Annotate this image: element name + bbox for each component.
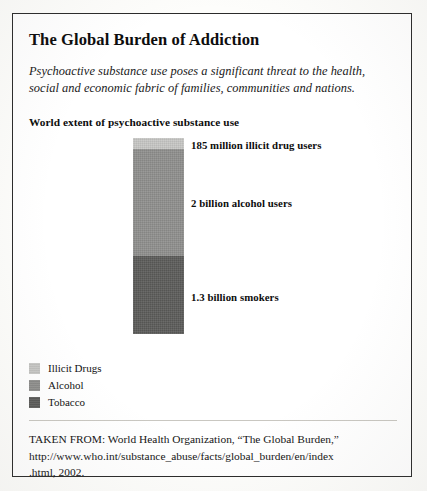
bar-label-alcohol: 2 billion alcohol users: [191, 197, 292, 209]
legend-item-alcohol: Alcohol: [29, 378, 229, 393]
citation-line-1: TAKEN FROM: World Health Organization, “…: [29, 431, 401, 448]
page-title: The Global Burden of Addiction: [29, 30, 395, 50]
legend-swatch-icon: [29, 397, 40, 408]
stacked-bar: [133, 138, 184, 334]
legend-label: Illicit Drugs: [48, 363, 101, 374]
legend-label: Alcohol: [48, 380, 83, 391]
legend-item-tobacco: Tobacco: [29, 395, 229, 410]
divider: [29, 420, 397, 421]
citation-line-3: .html, 2002.: [29, 464, 401, 481]
bar-segment-illicit-drugs: [133, 138, 184, 149]
source-citation: TAKEN FROM: World Health Organization, “…: [29, 431, 401, 481]
legend-swatch-icon: [29, 380, 40, 391]
chart-heading: World extent of psychoactive substance u…: [29, 116, 395, 128]
chart-legend: Illicit Drugs Alcohol Tobacco: [29, 361, 229, 412]
figure-subtitle: Psychoactive substance use poses a signi…: [29, 63, 395, 98]
stacked-bar-chart: 185 million illicit drug users 2 billion…: [29, 138, 395, 350]
bar-segment-tobacco: [133, 256, 184, 334]
figure-inner: The Global Burden of Addiction Psychoact…: [13, 14, 411, 476]
bar-segment-alcohol: [133, 149, 184, 256]
figure-box: The Global Burden of Addiction Psychoact…: [12, 13, 412, 477]
legend-label: Tobacco: [48, 397, 85, 408]
bar-label-illicit-drugs: 185 million illicit drug users: [191, 139, 321, 151]
bar-label-tobacco: 1.3 billion smokers: [191, 291, 279, 303]
legend-item-illicit-drugs: Illicit Drugs: [29, 361, 229, 376]
citation-line-2: http://www.who.int/substance_abuse/facts…: [29, 448, 401, 465]
legend-swatch-icon: [29, 363, 40, 374]
